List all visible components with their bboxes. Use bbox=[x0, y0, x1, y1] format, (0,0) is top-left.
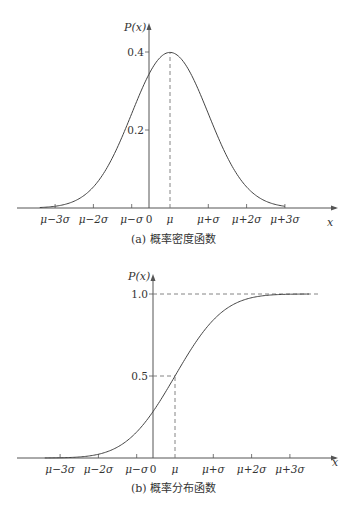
pdf-x-axis-arrow bbox=[331, 206, 338, 211]
x-tick-label: μ−3σ bbox=[45, 463, 75, 475]
figure: P(x) x 0.20.4 μ−3σμ−2σμ−σ0μμ+σμ+2σμ+3σ (… bbox=[0, 0, 355, 505]
x-tick-label: μ+2σ bbox=[237, 463, 267, 475]
y-tick-label: 0.4 bbox=[127, 46, 144, 58]
x-tick-label: μ bbox=[172, 463, 179, 475]
x-tick-label: μ−3σ bbox=[40, 213, 70, 225]
x-tick-label: μ−2σ bbox=[84, 463, 114, 475]
x-tick-label: μ+2σ bbox=[232, 213, 262, 225]
x-tick-label: μ bbox=[167, 213, 174, 225]
x-tick-label: 0 bbox=[150, 463, 157, 475]
x-tick-label: μ+3σ bbox=[275, 463, 305, 475]
x-tick-label: μ+σ bbox=[202, 463, 226, 475]
cdf-caption: (b) 概率分布函数 bbox=[131, 481, 216, 495]
cdf-y-axis-arrow bbox=[151, 274, 156, 281]
x-tick-label: μ−σ bbox=[120, 213, 144, 225]
cdf-chart: P(x) x 0.51.0 μ−3σμ−2σμ−σ0μμ+σμ+2σμ+3σ (… bbox=[17, 270, 339, 495]
x-tick-label: μ+σ bbox=[197, 213, 221, 225]
cdf-y-label: P(x) bbox=[127, 270, 150, 283]
x-tick-label: μ+3σ bbox=[270, 213, 300, 225]
y-tick-label: 1.0 bbox=[131, 288, 148, 300]
x-tick-label: 0 bbox=[146, 213, 153, 225]
y-tick-label: 0.5 bbox=[131, 370, 148, 382]
pdf-y-axis-arrow bbox=[147, 23, 152, 30]
pdf-chart: P(x) x 0.20.4 μ−3σμ−2σμ−σ0μμ+σμ+2σμ+3σ (… bbox=[17, 21, 338, 246]
cdf-curve bbox=[45, 294, 309, 458]
pdf-curve bbox=[40, 52, 285, 207]
x-tick-label: μ−2σ bbox=[79, 213, 109, 225]
pdf-y-label: P(x) bbox=[123, 21, 146, 34]
pdf-x-label: x bbox=[327, 216, 334, 229]
x-tick-label: μ−σ bbox=[125, 463, 149, 475]
cdf-x-label: x bbox=[332, 456, 339, 469]
y-tick-label: 0.2 bbox=[127, 124, 144, 136]
pdf-caption: (a) 概率密度函数 bbox=[131, 232, 216, 246]
